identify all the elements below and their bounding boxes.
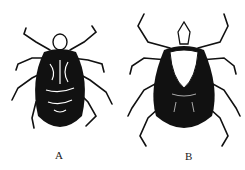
figure-label-a: A [55,149,63,161]
tick-b-illustration [124,8,244,148]
illustration-canvas: A B [0,0,245,170]
tick-b-icon [124,8,244,148]
tick-a-illustration [4,20,116,140]
tick-a-icon [4,20,116,140]
figure-label-b: B [185,150,192,162]
